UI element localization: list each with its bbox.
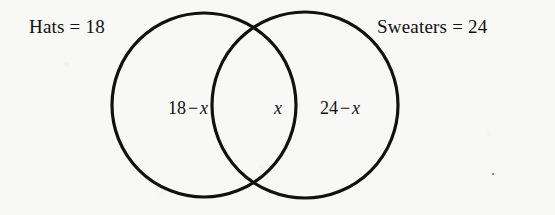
region-right-number: 24 xyxy=(320,98,338,118)
set-label-sweaters: Sweaters = 24 xyxy=(377,17,487,36)
region-right-variable: x xyxy=(352,98,360,118)
region-left-variable: x xyxy=(200,98,208,118)
region-left-number: 18 xyxy=(168,98,186,118)
region-label-hats-only: 18−x xyxy=(151,99,225,117)
set-label-hats: Hats = 18 xyxy=(29,17,105,36)
region-left-operator: − xyxy=(186,98,200,118)
venn-diagram: Hats = 18 Sweaters = 24 18−x x 24−x xyxy=(0,0,555,215)
region-label-intersection: x xyxy=(267,99,289,117)
region-right-operator: − xyxy=(338,98,352,118)
paper-speck xyxy=(492,173,494,175)
region-intersection-variable: x xyxy=(274,98,282,118)
region-label-sweaters-only: 24−x xyxy=(303,99,377,117)
